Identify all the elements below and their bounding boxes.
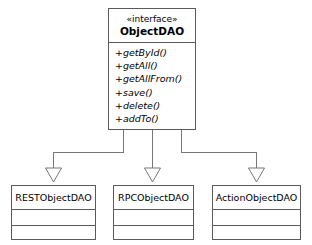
actionobjectdao-name-compartment: ActionObjectDAO <box>213 186 300 210</box>
objectdao-stereotype: «interface» <box>126 14 177 25</box>
objectdao-header-compartment: «interface» ObjectDAO <box>109 9 195 43</box>
actionobjectdao-class-name: ActionObjectDAO <box>216 192 298 203</box>
rpcobjectdao-attributes-compartment <box>114 210 193 226</box>
rpcobjectdao-name-compartment: RPCObjectDAO <box>114 186 193 210</box>
objectdao-operations-compartment: +getById() +getAll() +getAllFrom() +save… <box>109 43 195 129</box>
connector-rest <box>54 130 124 168</box>
operation-getall: +getAll() <box>115 59 195 72</box>
restobjectdao-name-compartment: RESTObjectDAO <box>12 186 95 210</box>
restobjectdao-attributes-compartment <box>12 210 95 226</box>
objectdao-class-name: ObjectDAO <box>120 25 184 38</box>
operation-delete: +delete() <box>115 99 195 112</box>
restobjectdao-class-name: RESTObjectDAO <box>15 192 91 203</box>
connector-action <box>182 130 257 168</box>
class-box-restobjectdao[interactable]: RESTObjectDAO <box>11 185 96 240</box>
actionobjectdao-methods-compartment <box>213 226 300 239</box>
generalization-arrowhead-rpc <box>145 168 161 182</box>
class-box-rpcobjectdao[interactable]: RPCObjectDAO <box>113 185 194 240</box>
uml-class-diagram: «interface» ObjectDAO +getById() +getAll… <box>0 0 312 245</box>
operation-getbyid: +getById() <box>115 46 195 59</box>
actionobjectdao-attributes-compartment <box>213 210 300 226</box>
generalization-arrowhead-rest <box>46 168 62 182</box>
operation-save: +save() <box>115 86 195 99</box>
operation-getallfrom: +getAllFrom() <box>115 72 195 85</box>
class-box-objectdao[interactable]: «interface» ObjectDAO +getById() +getAll… <box>108 8 196 130</box>
rpcobjectdao-class-name: RPCObjectDAO <box>118 192 189 203</box>
operation-addto: +addTo() <box>115 112 195 125</box>
rpcobjectdao-methods-compartment <box>114 226 193 239</box>
class-box-actionobjectdao[interactable]: ActionObjectDAO <box>212 185 301 240</box>
generalization-arrowhead-action <box>249 168 265 182</box>
restobjectdao-methods-compartment <box>12 226 95 239</box>
